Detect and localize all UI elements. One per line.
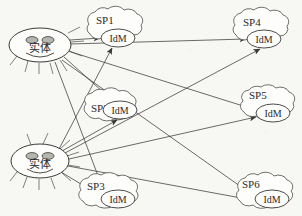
- provider-label-sp6: SP6: [242, 178, 260, 190]
- provider-label-sp4: SP4: [243, 16, 261, 28]
- idm-label-sp4: IdM: [255, 34, 272, 45]
- provider-label-sp3: SP3: [87, 180, 105, 192]
- connection-entity-bottom-sp2: [62, 120, 117, 151]
- provider-label-sp5: SP5: [249, 89, 267, 101]
- provider-sp4[interactable]: SP4 IdM: [233, 7, 289, 48]
- diagram-canvas: SP1 IdM SP4 IdM SP2 IdM SP5 IdM: [0, 0, 302, 216]
- entity-node-bottom[interactable]: 实体: [10, 133, 80, 190]
- provider-sp1[interactable]: SP1 IdM: [87, 6, 143, 47]
- provider-sp2[interactable]: SP2 IdM: [84, 88, 137, 121]
- idm-label-sp5: IdM: [264, 108, 281, 119]
- provider-sp5[interactable]: SP5 IdM: [240, 85, 294, 122]
- entity-label-bottom: 实体: [29, 157, 51, 171]
- connections-layer: [55, 38, 260, 200]
- federation-diagram-svg: SP1 IdM SP4 IdM SP2 IdM SP5 IdM: [0, 0, 302, 216]
- provider-label-sp1: SP1: [96, 14, 114, 26]
- connection-entity-top-sp4: [70, 39, 246, 44]
- provider-sp3[interactable]: SP3 IdM: [79, 173, 138, 209]
- idm-label-sp6: IdM: [263, 194, 280, 205]
- entity-node-top[interactable]: 实体: [9, 27, 84, 74]
- connection-entity-bottom-sp5: [69, 117, 256, 159]
- idm-label-sp3: IdM: [109, 194, 126, 205]
- idm-label-sp2: IdM: [111, 105, 128, 116]
- entity-label-top: 实体: [29, 41, 51, 55]
- provider-sp6[interactable]: SP6 IdM: [236, 172, 292, 208]
- idm-label-sp1: IdM: [109, 33, 126, 44]
